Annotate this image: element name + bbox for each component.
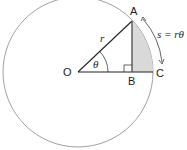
angle-arc: [100, 52, 108, 73]
shaded-region: [132, 21, 153, 72]
label-b: B: [128, 75, 135, 87]
arrowhead-top: [141, 17, 146, 21]
label-theta: θ: [93, 58, 99, 70]
label-arc-length: s = rθ: [157, 28, 184, 40]
label-o: O: [63, 66, 72, 78]
right-angle-marker: [124, 65, 132, 72]
radius-oa: [78, 21, 132, 72]
label-c: C: [156, 67, 164, 79]
circle-diagram: O A B C r θ s = rθ: [0, 0, 187, 150]
label-a: A: [130, 5, 138, 17]
label-r: r: [100, 32, 105, 44]
